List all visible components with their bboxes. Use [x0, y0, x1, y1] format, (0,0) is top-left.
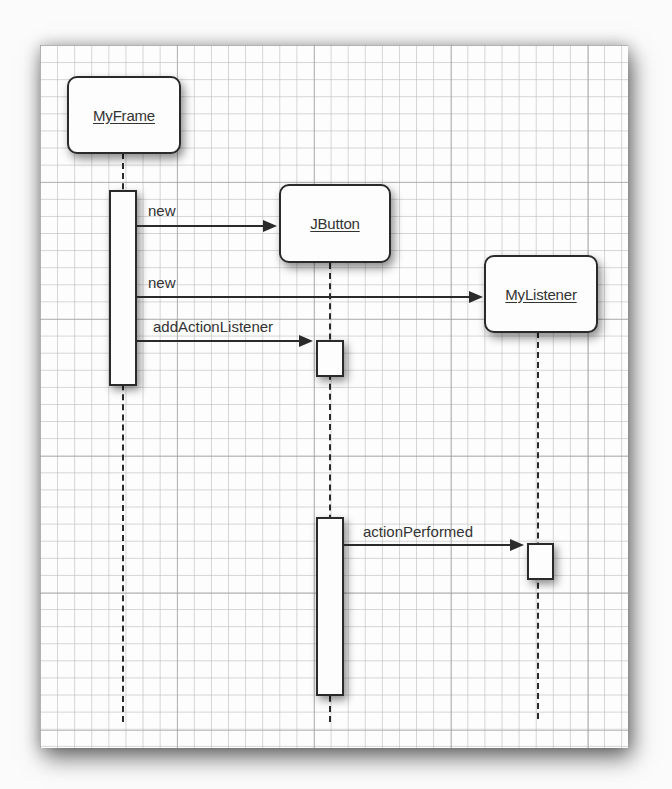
object-label: MyFrame: [93, 107, 155, 124]
message-arrow-addactionlistener: [137, 340, 301, 342]
activation-jbutton-1: [316, 340, 344, 377]
object-label: JButton: [310, 215, 359, 232]
activation-myframe: [109, 190, 137, 386]
message-arrow-actionperformed: [344, 544, 512, 546]
arrowhead-icon: [510, 539, 524, 551]
object-myframe: MyFrame: [67, 76, 181, 154]
activation-mylistener: [527, 543, 554, 580]
message-label-new-jbutton: new: [148, 202, 176, 219]
arrowhead-icon: [469, 291, 483, 303]
arrowhead-icon: [263, 220, 277, 232]
message-arrow-new-jbutton: [137, 225, 265, 227]
object-label: MyListener: [505, 286, 576, 303]
object-mylistener: MyListener: [484, 255, 598, 333]
message-label-actionperformed: actionPerformed: [363, 523, 473, 540]
message-label-new-mylistener: new: [148, 274, 176, 291]
activation-jbutton-2: [316, 517, 344, 696]
message-label-addactionlistener: addActionListener: [153, 318, 273, 335]
arrowhead-icon: [299, 335, 313, 347]
message-arrow-new-mylistener: [137, 296, 471, 298]
lifeline-mylistener: [537, 332, 539, 719]
object-jbutton: JButton: [279, 184, 391, 263]
